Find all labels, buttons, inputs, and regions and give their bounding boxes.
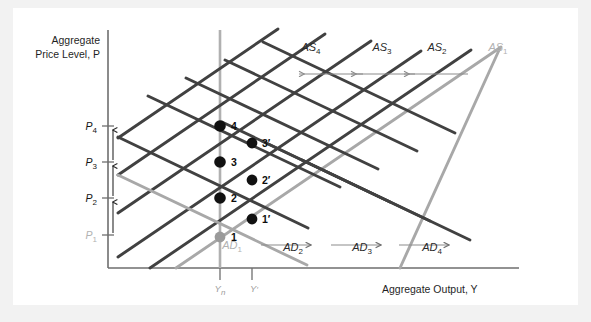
price-label-p2: P2 (86, 192, 98, 207)
ad-label-4: AD4 (421, 241, 442, 256)
as-curve-4 (118, 41, 371, 213)
price-label-p1: P1 (86, 229, 98, 244)
equilibrium-label-2-prime: 2′ (262, 174, 271, 186)
equilibrium-label-1: 1 (231, 231, 237, 243)
x-axis-title: Aggregate Output, Y (382, 283, 478, 295)
price-label-p4: P4 (86, 120, 98, 135)
equilibrium-dot-1-prime (247, 214, 258, 225)
figure-page: Aggregate Price Level, P Aggregate Outpu… (0, 0, 591, 322)
ad-curve-1 (118, 175, 307, 265)
as-label-2: AS2 (426, 41, 447, 56)
output-label-yprime: Y′ (250, 283, 258, 294)
equilibrium-dot-4 (214, 120, 226, 132)
equilibrium-label-4: 4 (231, 120, 237, 132)
y-axis-title-line2: Price Level, P (35, 48, 100, 60)
equilibrium-label-3: 3 (231, 156, 237, 168)
equilibrium-dot-2-prime (247, 175, 258, 186)
equilibrium-dot-2 (214, 192, 226, 204)
equilibrium-label-3-prime: 3′ (262, 137, 271, 149)
output-ticks (220, 268, 252, 280)
ad-label-3: AD3 (351, 241, 372, 256)
equilibrium-dot-3 (214, 156, 226, 168)
output-label-yn: Yn (215, 283, 226, 297)
output-tick-labels: Yn Y′ (215, 283, 259, 297)
as-label-4: AS4 (300, 41, 321, 56)
as-curve-labels: AS4 AS3 AS2 AS1 (300, 41, 508, 56)
equilibrium-label-1-prime: 1′ (262, 213, 271, 225)
as-label-3: AS3 (371, 41, 392, 56)
ad-curve-4a (263, 42, 455, 133)
price-label-p3: P3 (86, 156, 98, 171)
price-tick-labels: P4 P3 P2 P1 (86, 120, 98, 244)
as-ad-diagram: Aggregate Price Level, P Aggregate Outpu… (0, 0, 591, 322)
y-axis-title-line1: Aggregate (52, 34, 101, 46)
equilibrium-label-2: 2 (231, 192, 237, 204)
equilibrium-dot-3-prime (247, 138, 258, 149)
